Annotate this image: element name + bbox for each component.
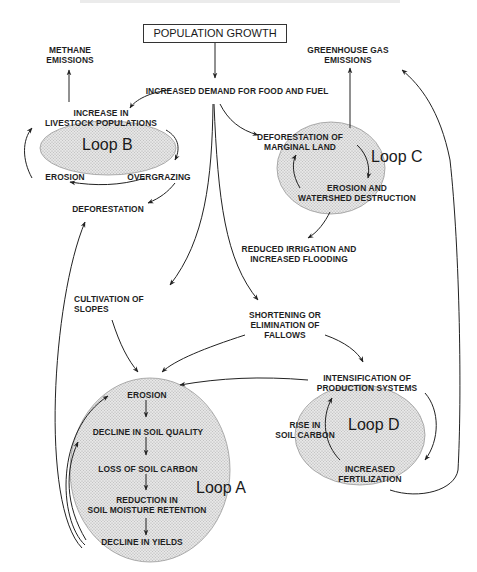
node-overgrazing: OVERGRAZING bbox=[124, 172, 194, 182]
node-loss-of-soil-carbon: LOSS OF SOIL CARBON bbox=[92, 464, 204, 474]
loop-c-label: Loop C bbox=[371, 148, 423, 166]
node-greenhouse-gas-emissions: GREENHOUSE GAS EMISSIONS bbox=[300, 45, 396, 65]
node-increased-fertilization: INCREASED FERTILIZATION bbox=[330, 464, 410, 484]
node-deforestation: DEFORESTATION bbox=[66, 204, 150, 214]
node-intensification: INTENSIFICATION OF PRODUCTION SYSTEMS bbox=[308, 373, 426, 393]
node-erosion-loop-b: EROSION bbox=[40, 172, 90, 182]
population-growth-box: POPULATION GROWTH bbox=[143, 24, 287, 43]
node-deforestation-marginal-land: DEFORESTATION OF MARGINAL LAND bbox=[250, 132, 350, 152]
node-decline-soil-quality: DECLINE IN SOIL QUALITY bbox=[86, 427, 210, 437]
node-shortening-fallows: SHORTENING OR ELIMINATION OF FALLOWS bbox=[240, 310, 330, 340]
node-soil-moisture-retention: REDUCTION IN SOIL MOISTURE RETENTION bbox=[74, 495, 220, 515]
node-reduced-irrigation: REDUCED IRRIGATION AND INCREASED FLOODIN… bbox=[236, 244, 362, 264]
node-erosion-watershed: EROSION AND WATERSHED DESTRUCTION bbox=[296, 183, 418, 203]
node-decline-in-yields: DECLINE IN YIELDS bbox=[90, 537, 194, 547]
node-cultivation-of-slopes: CULTIVATION OF SLOPES bbox=[74, 294, 160, 314]
node-livestock-populations: INCREASE IN LIVESTOCK POPULATIONS bbox=[36, 108, 166, 128]
node-erosion-loop-a: EROSION bbox=[122, 390, 172, 400]
node-rise-in-soil-carbon: RISE IN SOIL CARBON bbox=[270, 420, 340, 440]
loop-b-label: Loop B bbox=[82, 136, 133, 154]
loop-d-label: Loop D bbox=[348, 416, 400, 434]
node-methane-emissions: METHANE EMISSIONS bbox=[44, 45, 96, 65]
node-increased-demand: INCREASED DEMAND FOR FOOD AND FUEL bbox=[132, 86, 342, 96]
